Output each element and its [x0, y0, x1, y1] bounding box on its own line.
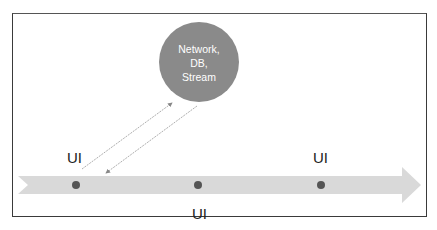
- timeline-dot-left: [72, 181, 80, 189]
- ui-label-left: UI: [67, 150, 82, 165]
- ui-label-right: UI: [313, 150, 328, 165]
- server-node-line-db: DB,: [160, 56, 238, 70]
- request-arrow: [82, 103, 172, 169]
- ui-label-middle: UI: [192, 206, 207, 221]
- timeline-dot-right: [317, 181, 325, 189]
- server-node-line-network: Network,: [160, 42, 238, 56]
- response-arrow: [106, 106, 197, 173]
- server-node-line-stream: Stream: [160, 70, 238, 84]
- server-node-label: Network, DB, Stream: [160, 42, 238, 84]
- diagram-canvas: [0, 0, 437, 230]
- timeline-dot-middle: [194, 181, 202, 189]
